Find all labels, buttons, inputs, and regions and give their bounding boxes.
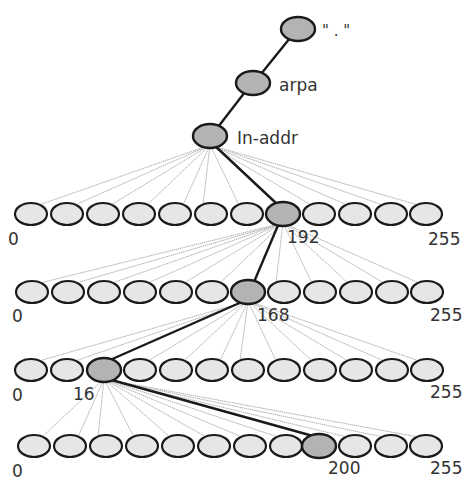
fan-edge [148,223,283,283]
octet-label: 168 [257,305,289,325]
node [159,203,191,225]
node [232,359,264,381]
path-edge [214,145,277,204]
node-highlighted [87,358,121,382]
node [410,203,442,225]
octet-label: 0 [12,385,23,405]
fan-edge [104,379,418,437]
node [15,203,47,225]
node [304,359,336,381]
octet-label: 0 [12,461,23,481]
fan-edge [39,145,210,205]
node [196,359,228,381]
octet-label: 200 [328,458,360,478]
node [88,281,120,303]
node [339,435,371,457]
path-edge [254,223,279,282]
path-edge [110,301,244,360]
octet-label: 192 [287,227,319,247]
label-in-addr: In-addr [237,128,298,148]
node [160,359,192,381]
node [198,435,230,457]
node [87,203,119,225]
node [51,359,83,381]
fan-edge [210,145,383,205]
fan-edge [210,145,347,205]
fan-edge [75,145,210,205]
dns-tree-diagram: " . "arpaIn-addr019225501682550162550200… [0,0,475,494]
node [51,203,83,225]
node-highlighted [231,280,265,304]
path-edge [261,38,290,74]
node [162,435,194,457]
node [18,435,50,457]
label-arpa: arpa [279,75,318,95]
node [196,281,228,303]
octet-label: 255 [430,305,462,325]
node [231,203,263,225]
fan-edge [147,145,210,205]
node-in-addr [193,124,227,148]
node [234,435,266,457]
node [411,359,443,381]
node [303,203,335,225]
node-arpa [236,71,270,95]
node [52,281,84,303]
octet-label: 16 [73,384,95,404]
fan-edge [98,379,104,437]
node [340,359,372,381]
octet-label: 255 [430,382,462,402]
node [54,435,86,457]
node [270,435,302,457]
node [16,281,48,303]
node [160,281,192,303]
node-highlighted [302,434,336,458]
node-root [281,17,315,41]
octet-label: 0 [12,306,23,326]
fan-edge [104,379,242,437]
node [340,281,372,303]
node [124,281,156,303]
node [268,359,300,381]
fan-edge [40,223,283,283]
node [126,435,158,457]
node [268,281,300,303]
fan-edge [104,379,383,437]
node [411,281,443,303]
node [376,281,408,303]
node-highlighted [266,202,300,226]
node [90,435,122,457]
node [123,203,155,225]
octet-label: 255 [430,458,462,478]
node [195,203,227,225]
node [376,359,408,381]
node [375,203,407,225]
node [410,435,442,457]
path-edge [218,92,245,127]
path-edge [108,379,313,436]
node [15,359,47,381]
fan-edge [183,145,210,205]
fan-edge [210,145,418,205]
label-root: " . " [322,22,350,40]
fan-edge [276,223,283,283]
node [375,435,407,457]
dns-tree-canvas: " . "arpaIn-addr019225501682550162550200… [0,0,475,494]
octet-label: 0 [8,229,19,249]
node [339,203,371,225]
octet-label: 255 [428,229,460,249]
node [304,281,336,303]
fan-edge [184,301,248,361]
fan-edge [148,301,248,361]
fan-edge [203,145,210,205]
node [124,359,156,381]
